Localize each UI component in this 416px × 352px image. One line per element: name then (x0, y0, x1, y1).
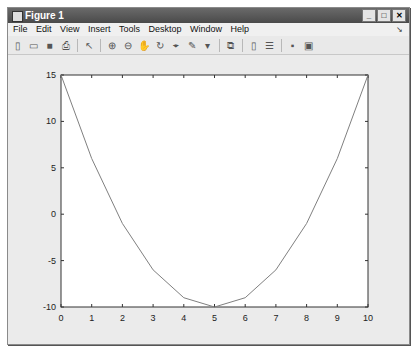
x-tick-label: 7 (273, 313, 278, 323)
x-tick-label: 3 (151, 313, 156, 323)
x-tick-label: 4 (181, 313, 186, 323)
x-tick-label: 9 (335, 313, 340, 323)
minimize-button[interactable]: _ (362, 9, 376, 22)
y-tick-label: -5 (48, 256, 56, 266)
toolbar-separator (219, 39, 220, 52)
brush-icon[interactable]: ✎ (185, 39, 198, 52)
figure-canvas: 012345678910151050-5-10 (8, 55, 409, 344)
x-tick-label: 8 (304, 313, 309, 323)
insert-colorbar-icon[interactable]: ▯ (247, 39, 260, 52)
insert-legend-icon[interactable]: ☰ (263, 39, 276, 52)
toolbar-separator (242, 39, 243, 52)
y-tick-label: 5 (51, 163, 56, 173)
toolbar-separator (100, 39, 101, 52)
title-bar[interactable]: Figure 1 _ □ ✕ (8, 8, 409, 23)
pan-icon[interactable]: ✋ (137, 39, 150, 52)
print-icon[interactable]: ⎙ (59, 39, 72, 52)
menu-window[interactable]: Window (187, 23, 225, 36)
x-tick-label: 2 (120, 313, 125, 323)
data-cursor-icon[interactable]: ⌖ (169, 39, 182, 52)
figure-window: Figure 1 _ □ ✕ File Edit View Insert Too… (7, 7, 410, 345)
menu-tools[interactable]: Tools (116, 23, 143, 36)
zoom-out-icon[interactable]: ⊖ (121, 39, 134, 52)
hide-plot-tools-icon[interactable]: ▪ (286, 39, 299, 52)
x-tick-label: 6 (243, 313, 248, 323)
window-controls: _ □ ✕ (362, 9, 406, 22)
y-tick-label: -10 (43, 302, 56, 312)
menu-bar: File Edit View Insert Tools Desktop Wind… (8, 23, 409, 36)
link-plot-icon[interactable]: ⧉ (224, 39, 237, 52)
y-tick-label: 15 (46, 70, 56, 80)
rotate-3d-icon[interactable]: ↻ (153, 39, 166, 52)
menu-help[interactable]: Help (228, 23, 253, 36)
show-plot-tools-icon[interactable]: ▣ (302, 39, 315, 52)
dock-figure-icon[interactable]: ↘ (396, 25, 403, 34)
menu-edit[interactable]: Edit (33, 23, 55, 36)
toolbar-separator (281, 39, 282, 52)
menu-view[interactable]: View (57, 23, 82, 36)
save-icon[interactable]: ■ (43, 39, 56, 52)
x-tick-label: 0 (58, 313, 63, 323)
x-tick-label: 1 (89, 313, 94, 323)
window-title: Figure 1 (25, 8, 64, 23)
brush-dropdown-icon[interactable]: ▾ (201, 39, 214, 52)
matlab-figure-icon (12, 11, 23, 22)
toolbar-separator (77, 39, 78, 52)
edit-plot-icon[interactable]: ↖ (82, 39, 95, 52)
y-tick-label: 0 (51, 209, 56, 219)
open-file-icon[interactable]: ▭ (27, 39, 40, 52)
menu-desktop[interactable]: Desktop (146, 23, 185, 36)
menu-file[interactable]: File (10, 23, 31, 36)
x-tick-label: 5 (212, 313, 217, 323)
zoom-in-icon[interactable]: ⊕ (105, 39, 118, 52)
x-tick-label: 10 (363, 313, 373, 323)
y-tick-label: 10 (46, 116, 56, 126)
new-figure-icon[interactable]: ▯ (11, 39, 24, 52)
maximize-button[interactable]: □ (377, 9, 391, 22)
figure-toolbar: ▯▭■⎙↖⊕⊖✋↻⌖✎▾⧉▯☰▪▣ (8, 36, 409, 55)
plot-axes[interactable]: 012345678910151050-5-10 (8, 55, 409, 344)
menu-insert[interactable]: Insert (85, 23, 114, 36)
close-button[interactable]: ✕ (392, 9, 406, 22)
